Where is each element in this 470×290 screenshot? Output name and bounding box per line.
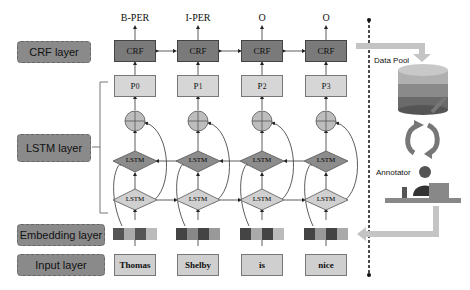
p-node-3: P3 [305,75,347,97]
output-tag-3: O [306,12,346,23]
vertical-flows [135,27,326,246]
lstm-label-f0: LSTM [120,195,150,203]
embedding-vector-2 [240,228,284,240]
diagram-connections [0,0,470,290]
sum-node-2 [252,111,272,131]
sum-nodes [125,111,336,131]
sum-node-1 [188,111,208,131]
lstm-label-b0: LSTM [120,156,150,164]
p-node-2: P2 [241,75,283,97]
database-icon [398,64,448,115]
lstm-label-b3: LSTM [311,156,341,164]
lstm-label-f2: LSTM [247,195,277,203]
crf-node-0: CRF [114,40,156,62]
input-word-3: nice [305,254,347,276]
crf-node-3: CRF [305,40,347,62]
lstm-label-f1: LSTM [183,195,213,203]
input-word-0: Thomas [114,254,156,276]
output-tag-2: O [242,12,282,23]
embedding-vector-1 [176,228,220,240]
crf-node-2: CRF [241,40,283,62]
output-tag-0: B-PER [115,12,155,23]
embedding-vector-0 [113,228,157,240]
lstm-label-b2: LSTM [247,156,277,164]
p-subscript: 2 [263,82,267,91]
lstm-label-b1: LSTM [183,156,213,164]
sum-node-3 [316,111,336,131]
refresh-cycle-icon [408,125,438,153]
input-word-1: Shelby [177,254,219,276]
crf-node-1: CRF [177,40,219,62]
p-subscript: 1 [199,82,203,91]
annotator-label: Annotator [376,168,411,177]
input-word-2: is [241,254,283,276]
p-node-0: P0 [114,75,156,97]
output-tag-1: I-PER [178,12,218,23]
p-subscript: 3 [327,82,331,91]
embedding-vector-3 [304,228,348,240]
data-pool-label: Data Pool [374,56,409,65]
lstm-label-f3: LSTM [311,195,341,203]
sum-node-0 [125,111,145,131]
p-subscript: 0 [136,82,140,91]
p-node-1: P1 [177,75,219,97]
